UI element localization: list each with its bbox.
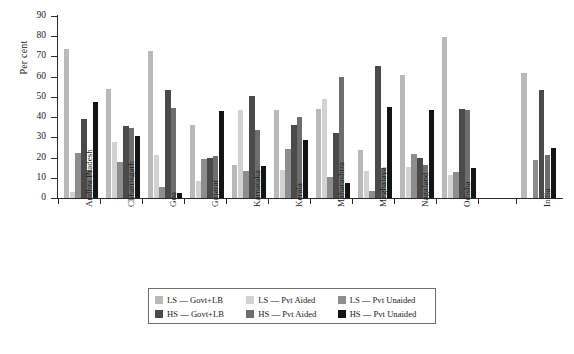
y-tick-mark [51,117,57,118]
y-tick-mark [51,56,57,57]
bar [232,165,237,198]
bar [243,171,248,198]
bar [285,149,290,198]
legend-item[interactable]: HS — Pvt Unaided [338,310,429,319]
x-tick-mark [394,199,395,204]
bar [316,109,321,198]
y-tick-mark [51,178,57,179]
legend-label: LS — Pvt Aided [258,296,315,305]
bar-group [274,16,309,198]
legend-row-ls: LS — Govt+LBLS — Pvt AidedLS — Pvt Unaid… [155,293,429,307]
bar [406,167,411,198]
legend-label: HS — Pvt Unaided [350,310,417,319]
y-tick-mark [51,137,57,138]
bar [238,110,243,198]
bar [539,90,544,198]
x-axis-label: Nagaland [421,173,430,207]
bar [400,75,405,198]
bar [112,142,117,198]
y-tick-label: 90 [20,11,46,21]
legend-item[interactable]: LS — Pvt Aided [246,296,337,305]
x-axis-label: India [543,189,552,208]
y-tick-label: 20 [20,153,46,163]
legend-swatch-icon [338,296,346,304]
bar [322,99,327,198]
x-tick-mark [436,199,437,204]
x-axis-label: Odisha [463,182,472,208]
bar [358,150,363,198]
x-axis-label: Andhra Pradesh [85,149,94,207]
bar [411,154,416,198]
bar [154,155,159,198]
y-tick-label: 40 [20,112,46,122]
bar [117,162,122,198]
bar [327,177,332,198]
bar [75,153,80,199]
x-tick-mark [100,199,101,204]
legend-swatch-icon [246,310,254,318]
chart-legend: LS — Govt+LBLS — Pvt AidedLS — Pvt Unaid… [148,288,436,324]
legend-swatch-icon [155,310,163,318]
x-axis-label: Karnataka [253,170,262,207]
bar-group [442,16,477,198]
bar-group [190,16,225,198]
y-tick-label: 80 [20,31,46,41]
bar [70,192,75,198]
y-tick-mark [51,97,57,98]
x-axis-label: Chhattisgarh [127,161,136,207]
bar [442,37,447,198]
legend-label: HS — Pvt Aided [258,310,316,319]
x-tick-mark [184,199,185,204]
bar [274,110,279,198]
legend-label: HS — Govt+LB [167,310,224,319]
x-tick-mark [226,199,227,204]
y-tick-label: 50 [20,92,46,102]
x-axis-label: Goa [169,192,178,207]
y-tick-label: 10 [20,173,46,183]
legend-item[interactable]: HS — Govt+LB [155,310,246,319]
bar [106,89,111,198]
bar [159,187,164,198]
x-tick-mark [142,199,143,204]
bar-group [521,16,556,198]
legend-swatch-icon [246,296,254,304]
bar-group [400,16,435,198]
y-tick-label: 60 [20,72,46,82]
x-axis-label: Meghalaya [379,167,388,207]
y-tick-mark [51,36,57,37]
y-tick-label: 70 [20,51,46,61]
x-axis-label: Kerala [295,183,304,207]
bar [280,170,285,198]
x-tick-mark [58,199,59,204]
bar [364,171,369,198]
x-tick-mark [516,199,517,204]
bar [165,90,170,198]
bar [148,51,153,198]
bar [521,73,526,198]
bar [448,175,453,198]
legend-swatch-icon [155,296,163,304]
bar [533,160,538,198]
y-tick-label: 30 [20,132,46,142]
bar [369,191,374,198]
y-tick-label: 0 [20,193,46,203]
x-axis-label: Gujarat [211,180,220,207]
bar [196,181,201,198]
bar [171,108,176,198]
x-tick-mark [310,199,311,204]
bar-group [148,16,183,198]
y-tick-mark [51,198,57,199]
y-tick-mark [51,16,57,17]
bar [190,125,195,198]
x-axis-label: Maharashtra [337,162,346,207]
y-tick-mark [51,77,57,78]
legend-item[interactable]: LS — Govt+LB [155,296,246,305]
bar-chart-figure: Per cent 0102030405060708090 Andhra Prad… [0,0,574,354]
legend-item[interactable]: LS — Pvt Unaided [338,296,429,305]
legend-row-hs: HS — Govt+LBHS — Pvt AidedHS — Pvt Unaid… [155,307,429,321]
x-tick-mark [268,199,269,204]
y-tick-mark [51,158,57,159]
x-tick-mark [352,199,353,204]
legend-item[interactable]: HS — Pvt Aided [246,310,337,319]
bar [201,159,206,198]
